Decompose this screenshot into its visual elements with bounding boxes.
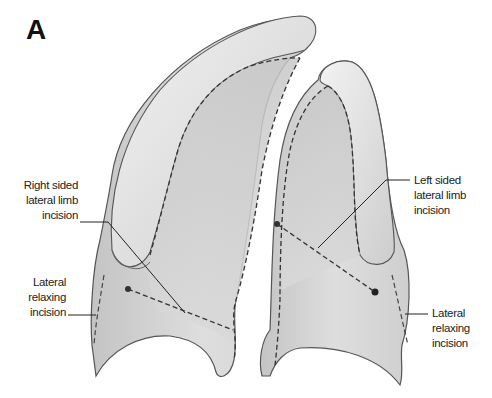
- right-flap: [260, 61, 409, 385]
- label-line: relaxing: [8, 290, 66, 305]
- label-line: lateral limb: [414, 188, 490, 203]
- label-line: relaxing: [432, 321, 490, 336]
- label-right-sided-lateral-limb-incision: Right sided lateral limb incision: [8, 178, 78, 223]
- label-line: Right sided: [8, 178, 78, 193]
- label-left-lateral-relaxing-incision: Lateral relaxing incision: [432, 306, 490, 351]
- label-line: lateral limb: [8, 193, 78, 208]
- figure-panel: A Right sided lateral limb incision Late…: [0, 0, 492, 398]
- label-left-sided-lateral-limb-incision: Left sided lateral limb incision: [414, 173, 490, 218]
- label-right-lateral-relaxing-incision: Lateral relaxing incision: [8, 275, 66, 320]
- label-line: Left sided: [414, 173, 490, 188]
- label-line: incision: [8, 305, 66, 320]
- label-line: Lateral: [432, 306, 490, 321]
- label-line: incision: [414, 203, 490, 218]
- panel-letter: A: [26, 16, 46, 44]
- label-line: incision: [8, 208, 78, 223]
- label-line: incision: [432, 336, 490, 351]
- label-line: Lateral: [8, 275, 66, 290]
